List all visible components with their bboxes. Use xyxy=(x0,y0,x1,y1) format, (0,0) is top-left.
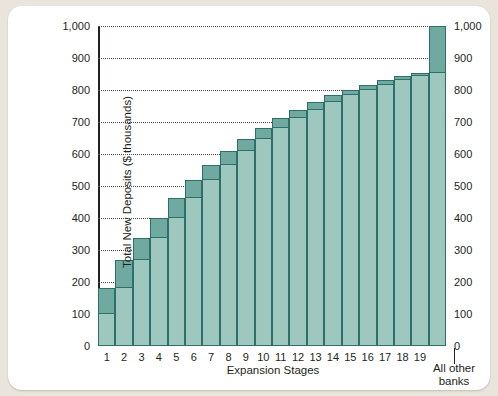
bar-increment xyxy=(289,110,306,119)
bar-increment xyxy=(133,238,150,260)
y-tick-left-700: 700 xyxy=(38,117,90,128)
bar-increment xyxy=(168,198,185,218)
bar-increment xyxy=(202,165,219,181)
bar-column xyxy=(394,26,411,346)
bar-increment xyxy=(429,26,446,73)
y-tick-left-200: 200 xyxy=(38,277,90,288)
bar xyxy=(98,288,115,346)
bar-increment xyxy=(150,218,167,238)
plot-area: Total New Deposits ($ thousands) xyxy=(98,26,446,346)
bar-column xyxy=(168,26,185,346)
bar xyxy=(272,118,289,346)
y-tick-left-500: 500 xyxy=(38,181,90,192)
bar-increment xyxy=(324,95,341,102)
bar-column xyxy=(98,26,115,346)
bar-column xyxy=(324,26,341,346)
y-tick-left-0: 0 xyxy=(38,341,90,352)
bar-increment xyxy=(272,118,289,127)
bar xyxy=(289,110,306,346)
bar-increment xyxy=(359,85,376,90)
bar xyxy=(429,26,446,346)
all-other-banks-label-line2: banks xyxy=(408,375,498,388)
bar xyxy=(185,180,202,346)
bar-increment xyxy=(255,128,272,139)
y-tick-right-300: 300 xyxy=(454,245,498,256)
bar xyxy=(168,198,185,346)
bar-column xyxy=(272,26,289,346)
y-tick-left-900: 900 xyxy=(38,53,90,64)
bar-column xyxy=(220,26,237,346)
all-other-banks-label: All other banks xyxy=(408,362,498,388)
y-tick-left-1000: 1,000 xyxy=(38,21,90,32)
bar-increment xyxy=(342,90,359,96)
bar-column xyxy=(237,26,254,346)
y-tick-right-400: 400 xyxy=(454,213,498,224)
bar-increment xyxy=(237,139,254,151)
y-tick-right-700: 700 xyxy=(454,117,498,128)
bar-column xyxy=(359,26,376,346)
bar xyxy=(202,165,219,346)
y-tick-left-800: 800 xyxy=(38,85,90,96)
y-tick-left-300: 300 xyxy=(38,245,90,256)
bar-increment xyxy=(307,102,324,110)
y-tick-right-1000: 1,000 xyxy=(454,21,498,32)
bar-column xyxy=(133,26,150,346)
bar-series xyxy=(98,26,446,346)
bar xyxy=(394,76,411,346)
bar-column xyxy=(255,26,272,346)
y-tick-right-0: 0 xyxy=(454,341,498,352)
bar xyxy=(359,85,376,346)
y-tick-right-500: 500 xyxy=(454,181,498,192)
bar xyxy=(220,151,237,346)
x-axis-title: Expansion Stages xyxy=(158,364,388,376)
bar-increment xyxy=(220,151,237,164)
bar-increment xyxy=(411,73,428,76)
y-tick-right-200: 200 xyxy=(454,277,498,288)
y-tick-right-900: 900 xyxy=(454,53,498,64)
y-axis-title: Total New Deposits ($ thousands) xyxy=(121,57,133,307)
bar xyxy=(377,80,394,346)
y-tick-right-600: 600 xyxy=(454,149,498,160)
y-tick-right-800: 800 xyxy=(454,85,498,96)
bar xyxy=(133,238,150,346)
y-tick-left-600: 600 xyxy=(38,149,90,160)
bar-column xyxy=(429,26,446,346)
bar-column xyxy=(377,26,394,346)
bar-column xyxy=(307,26,324,346)
bar xyxy=(150,218,167,346)
bar xyxy=(342,90,359,346)
bar-increment xyxy=(394,76,411,80)
bar xyxy=(307,102,324,346)
bar xyxy=(324,95,341,346)
chart-card: Total New Deposits ($ thousands) 0100200… xyxy=(8,6,490,390)
bar-column xyxy=(150,26,167,346)
bar xyxy=(411,73,428,346)
bar-increment xyxy=(185,180,202,197)
bar-column xyxy=(342,26,359,346)
y-tick-left-400: 400 xyxy=(38,213,90,224)
bar-column xyxy=(411,26,428,346)
y-tick-right-100: 100 xyxy=(454,309,498,320)
y-tick-left-100: 100 xyxy=(38,309,90,320)
bar-column xyxy=(185,26,202,346)
bar-increment xyxy=(98,288,115,314)
bar xyxy=(255,128,272,346)
bar-increment xyxy=(377,80,394,84)
all-other-banks-label-line1: All other xyxy=(408,362,498,375)
bar-column xyxy=(289,26,306,346)
bar xyxy=(237,139,254,346)
bar-column xyxy=(202,26,219,346)
